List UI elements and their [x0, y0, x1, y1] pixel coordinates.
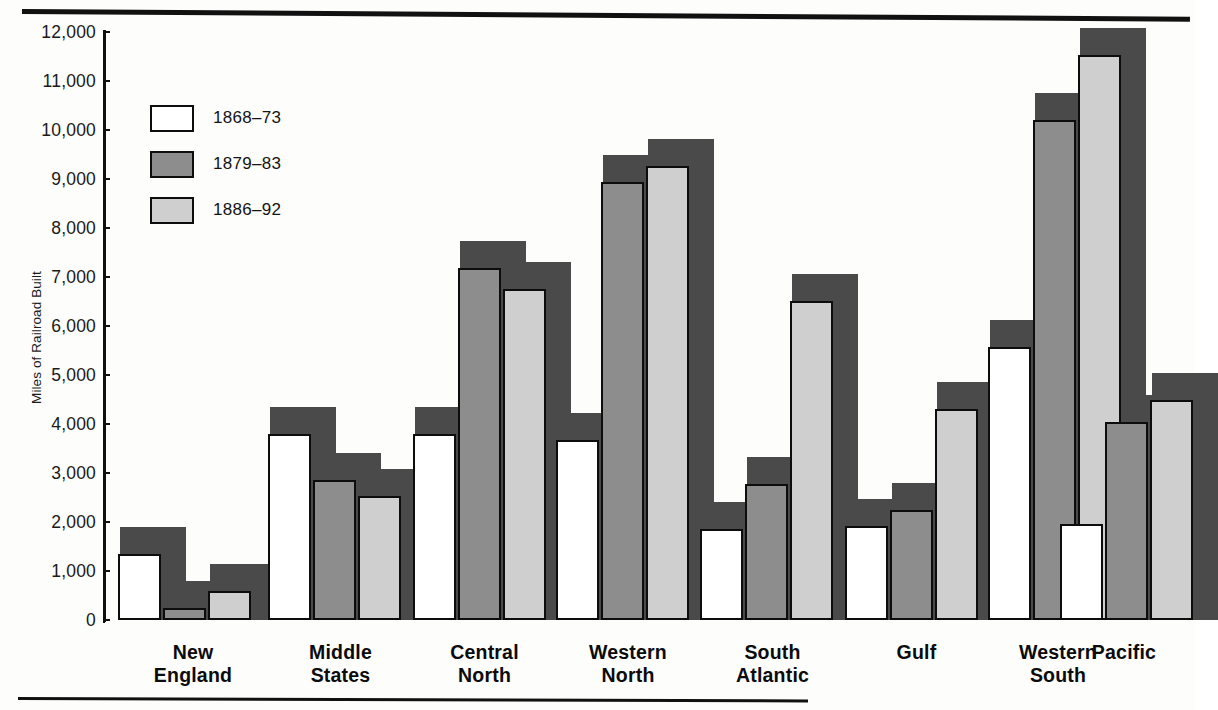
legend-swatch [150, 151, 194, 178]
y-tick-label: 10,000 [6, 120, 96, 141]
bar-face [937, 411, 976, 618]
bar-depth-shadow [1191, 373, 1218, 620]
y-tick-label: 7,000 [6, 267, 96, 288]
y-tick [103, 374, 110, 376]
y-tick-label: 5,000 [6, 365, 96, 386]
bar-top-shadow [1152, 373, 1218, 400]
bar-face [1107, 424, 1146, 618]
y-tick [103, 227, 110, 229]
bar-group [845, 0, 988, 710]
bar [745, 484, 788, 620]
y-tick-label: 2,000 [6, 512, 96, 533]
legend-item: 1868–73 [150, 100, 281, 136]
bar [935, 409, 978, 620]
bar-face [270, 436, 309, 618]
legend-swatch [150, 197, 194, 224]
bar-face [415, 436, 454, 618]
bar [646, 166, 689, 620]
y-tick [103, 521, 110, 523]
category-label-line: South [966, 664, 1150, 687]
bar-group [700, 0, 845, 710]
bar-face [847, 528, 886, 618]
legend-item: 1879–83 [150, 146, 281, 182]
bar-top-shadow [1080, 28, 1146, 55]
y-tick-label: 12,000 [6, 22, 96, 43]
legend-item: 1886–92 [150, 192, 281, 228]
bar [313, 480, 356, 620]
bar [458, 268, 501, 620]
bar-face [603, 184, 642, 618]
category-label-line: Atlantic [678, 664, 867, 687]
bar-face [460, 270, 499, 618]
category-label: Pacific [1038, 641, 1210, 664]
y-tick [103, 31, 110, 33]
y-tick [103, 619, 110, 621]
y-tick-label: 6,000 [6, 316, 96, 337]
legend-label: 1886–92 [213, 200, 281, 220]
bar [556, 440, 599, 620]
bar [358, 496, 401, 620]
bar-face [505, 291, 544, 618]
bar-face [120, 556, 159, 618]
y-tick-label: 8,000 [6, 218, 96, 239]
y-tick [103, 423, 110, 425]
bar-face [558, 442, 597, 618]
legend-swatch [150, 105, 194, 132]
bar [845, 526, 888, 620]
bar-group [268, 0, 413, 710]
y-tick-label: 0 [6, 610, 96, 631]
bar-face [892, 512, 931, 618]
bar-face [648, 168, 687, 618]
bar-face [315, 482, 354, 618]
bar [163, 608, 206, 620]
y-tick-label: 3,000 [6, 463, 96, 484]
bar-face [1152, 402, 1191, 618]
y-tick [103, 129, 110, 131]
legend: 1868–731879–831886–92 [150, 100, 281, 238]
y-tick [103, 472, 110, 474]
y-axis-title: Miles of Railroad Built [29, 208, 44, 468]
bar-top-shadow [270, 407, 336, 434]
bar [208, 591, 251, 620]
bar-face [702, 531, 741, 618]
bar [790, 301, 833, 620]
bar-face [990, 349, 1029, 618]
y-tick [103, 80, 110, 82]
y-tick [103, 325, 110, 327]
bar [268, 434, 311, 620]
bar-face [747, 486, 786, 618]
y-tick-label: 9,000 [6, 169, 96, 190]
y-tick [103, 178, 110, 180]
bar-top-shadow [120, 527, 186, 554]
y-tick-label: 1,000 [6, 561, 96, 582]
bar-face [210, 593, 249, 618]
y-tick [103, 276, 110, 278]
legend-label: 1868–73 [213, 108, 281, 128]
bar-face [1062, 526, 1101, 618]
bar-face [360, 498, 399, 618]
bar-face [792, 303, 831, 618]
bar-group [413, 0, 556, 710]
bar [1105, 422, 1148, 620]
bar [601, 182, 644, 620]
bar [503, 289, 546, 620]
bar [1150, 400, 1193, 620]
bar [118, 554, 161, 620]
bar-top-shadow [505, 262, 571, 289]
bar-face [165, 610, 204, 618]
legend-label: 1879–83 [213, 154, 281, 174]
bar-top-shadow [792, 274, 858, 301]
y-tick-label: 4,000 [6, 414, 96, 435]
bar-group [556, 0, 700, 710]
category-label-line: Pacific [1038, 641, 1210, 664]
bar [890, 510, 933, 620]
bar [700, 529, 743, 620]
bar-top-shadow [648, 139, 714, 166]
bar [413, 434, 456, 620]
y-tick [103, 570, 110, 572]
bar [1060, 524, 1103, 620]
bar [988, 347, 1031, 620]
bar-top-shadow [210, 564, 276, 591]
